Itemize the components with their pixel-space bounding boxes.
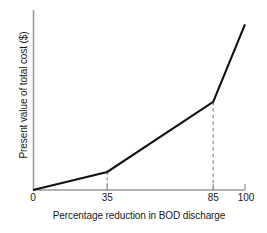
x-tick-label-85: 85 — [198, 192, 228, 204]
cost-curve — [33, 24, 245, 190]
x-tick-label-0: 0 — [18, 192, 48, 204]
x-tick-label-35: 35 — [92, 192, 122, 204]
chart-figure: Present value of total cost ($) Percenta… — [0, 0, 267, 233]
x-axis-label: Percentage reduction in BOD discharge — [33, 210, 245, 221]
x-tick-label-100: 100 — [231, 192, 261, 204]
y-axis-label: Present value of total cost ($) — [16, 0, 32, 190]
